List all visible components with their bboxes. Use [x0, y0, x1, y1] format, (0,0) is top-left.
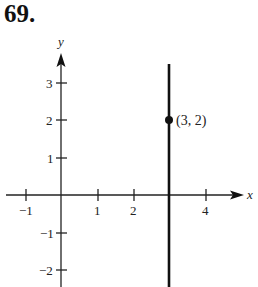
x-tick-label: −1 — [19, 203, 33, 218]
y-axis: 3 2 1 −1 −2 y — [39, 34, 67, 287]
x-tick-label: 2 — [130, 203, 137, 218]
x-tick-label: 1 — [94, 203, 101, 218]
x-axis-label: x — [246, 187, 253, 202]
x-axis: −1 1 2 4 x — [6, 187, 253, 218]
y-tick-label: −2 — [39, 263, 53, 278]
coordinate-graph: −1 1 2 4 x 3 2 1 −1 −2 y (3, 2) — [0, 0, 258, 287]
point-label: (3, 2) — [176, 113, 207, 129]
y-tick-label: −1 — [40, 226, 54, 241]
x-tick-label: 4 — [202, 203, 209, 218]
y-tick-label: 1 — [47, 151, 54, 166]
y-tick-label: 3 — [46, 76, 53, 91]
y-axis-label: y — [56, 34, 64, 49]
y-tick-label: 2 — [46, 113, 53, 128]
point-marker — [165, 116, 173, 124]
